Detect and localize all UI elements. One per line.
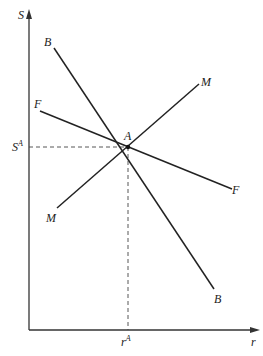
y-axis-label: S bbox=[18, 8, 24, 22]
label-point-a: A bbox=[123, 129, 132, 143]
label-m-bottom: M bbox=[45, 211, 57, 225]
label-s-a: SA bbox=[12, 139, 23, 154]
reference-lines bbox=[29, 147, 128, 330]
curve-ff bbox=[40, 111, 232, 189]
label-m-top: M bbox=[200, 75, 212, 89]
label-r-a-sup: A bbox=[125, 334, 131, 343]
curve-bb bbox=[54, 48, 214, 289]
label-s-a-sup: A bbox=[17, 139, 23, 148]
equilibrium-diagram: S r B B F F M M A SA rA bbox=[0, 0, 263, 356]
x-axis-arrow-icon bbox=[250, 327, 260, 333]
x-axis-label: r bbox=[251, 335, 256, 349]
label-b-bottom: B bbox=[214, 292, 222, 306]
label-r-a: rA bbox=[121, 334, 131, 349]
y-axis-arrow-icon bbox=[26, 9, 32, 19]
label-f-right: F bbox=[231, 183, 240, 197]
point-a-marker bbox=[126, 145, 130, 149]
label-f-left: F bbox=[33, 97, 42, 111]
label-b-top: B bbox=[44, 35, 52, 49]
